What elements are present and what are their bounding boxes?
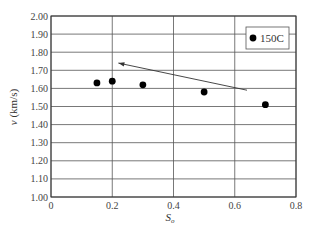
y-tick-label: 1.20 bbox=[31, 155, 49, 166]
y-tick-label: 1.10 bbox=[31, 173, 49, 184]
data-point bbox=[262, 101, 269, 108]
y-tick-label: 1.60 bbox=[31, 83, 49, 94]
x-tick-label: 0.6 bbox=[229, 200, 242, 211]
y-axis-label: v (km/s) bbox=[7, 88, 20, 125]
y-tick-label: 1.70 bbox=[31, 65, 49, 76]
y-tick-label: 1.30 bbox=[31, 137, 49, 148]
y-tick-label: 1.00 bbox=[31, 192, 49, 203]
trend-arrow bbox=[118, 62, 247, 90]
x-axis-ticks: 00.20.40.60.8 bbox=[49, 200, 303, 211]
x-tick-label: 0.8 bbox=[290, 200, 303, 211]
x-axis-label: So bbox=[166, 211, 176, 225]
x-tick-label: 0.2 bbox=[106, 200, 119, 211]
scatter-chart: 1.001.101.201.301.401.501.601.701.801.90… bbox=[0, 0, 311, 231]
y-tick-label: 1.90 bbox=[31, 29, 49, 40]
x-tick-label: 0 bbox=[49, 200, 54, 211]
data-point bbox=[201, 89, 208, 96]
y-tick-label: 2.00 bbox=[31, 11, 49, 22]
legend-marker-icon bbox=[250, 35, 257, 42]
data-point bbox=[139, 81, 146, 88]
legend-label: 150C bbox=[260, 32, 284, 44]
data-point bbox=[94, 80, 101, 87]
x-tick-label: 0.4 bbox=[167, 200, 180, 211]
data-point bbox=[109, 78, 116, 85]
data-series-150c bbox=[94, 78, 269, 108]
y-axis-ticks: 1.001.101.201.301.401.501.601.701.801.90… bbox=[31, 11, 49, 203]
y-tick-label: 1.80 bbox=[31, 47, 49, 58]
y-tick-label: 1.50 bbox=[31, 101, 49, 112]
y-tick-label: 1.40 bbox=[31, 119, 49, 130]
legend: 150C bbox=[246, 27, 289, 49]
